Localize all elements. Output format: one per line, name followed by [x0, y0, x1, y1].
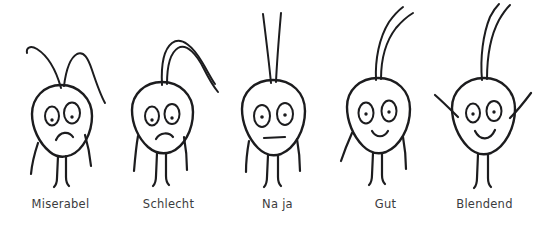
antennae-icon [481, 4, 510, 80]
legs-shape [474, 154, 491, 188]
mood-label-schlecht: Schlecht [114, 196, 223, 212]
mood-figure-blendend[interactable] [430, 0, 539, 195]
antennae-icon [162, 41, 218, 92]
mouth-shape [156, 133, 173, 139]
head-shape [347, 78, 410, 153]
eyes-icon [145, 104, 180, 126]
mood-label-gut: Gut [331, 196, 440, 212]
mood-figure-miserabel[interactable] [6, 0, 115, 195]
figure-row [0, 0, 545, 195]
mood-figure-naja[interactable] [223, 0, 332, 195]
mood-label-blendend: Blendend [430, 196, 539, 212]
eyes-icon [254, 103, 293, 127]
label-row: Miserabel Schlecht Na ja Gut Blendend [0, 196, 545, 229]
head-shape [242, 80, 305, 155]
eyes-icon [359, 101, 397, 124]
mouth-shape [372, 131, 388, 136]
antennae-icon [263, 13, 281, 83]
legs-shape [153, 153, 169, 186]
mood-label-naja: Na ja [223, 196, 332, 212]
antennae-icon [376, 7, 413, 80]
head-shape [32, 85, 92, 157]
mouth-shape [264, 137, 285, 138]
head-shape [452, 78, 515, 154]
mood-figure-gut[interactable] [331, 0, 440, 195]
mouth-shape [56, 133, 73, 140]
arms-shape [435, 93, 531, 118]
legs-shape [369, 153, 385, 185]
legs-shape [54, 156, 69, 187]
legs-shape [264, 155, 281, 187]
mouth-shape [475, 130, 495, 138]
eyes-icon [466, 101, 502, 123]
eyes-icon [45, 103, 80, 126]
mood-figure-schlecht[interactable] [114, 0, 223, 195]
mood-rating-scale: Miserabel Schlecht Na ja Gut Blendend [0, 0, 545, 229]
mood-label-miserabel: Miserabel [6, 196, 115, 212]
